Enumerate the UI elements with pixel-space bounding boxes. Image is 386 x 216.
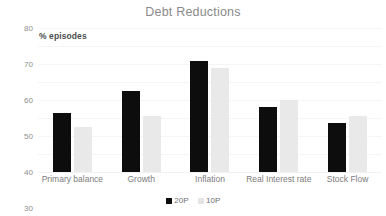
legend-item[interactable]: 10P — [198, 196, 221, 205]
y-axis-tick-label: 40 — [3, 168, 33, 177]
bar-group — [244, 28, 313, 172]
x-axis-category-label: Growth — [107, 174, 176, 185]
bar-10p[interactable] — [74, 127, 92, 172]
legend-swatch-icon — [198, 198, 204, 204]
y-axis-tick-label: 70 — [3, 60, 33, 69]
bar-20p[interactable] — [259, 107, 277, 172]
legend-item[interactable]: 20P — [166, 196, 189, 205]
x-axis-category-label: Stock Flow — [313, 174, 382, 185]
bar-groups — [38, 28, 382, 172]
gridline: 0 — [38, 172, 382, 173]
x-axis-category-label: Primary balance — [38, 174, 107, 185]
y-axis-tick-label: 80 — [3, 24, 33, 33]
bar-20p[interactable] — [190, 61, 208, 172]
bar-group — [176, 28, 245, 172]
bar-group — [313, 28, 382, 172]
bar-20p[interactable] — [328, 123, 346, 172]
bar-10p[interactable] — [280, 100, 298, 172]
legend-label: 20P — [174, 196, 188, 205]
chart-title: Debt Reductions — [0, 5, 386, 19]
bar-20p[interactable] — [122, 91, 140, 172]
bar-20p[interactable] — [53, 113, 71, 172]
plot-area: 80706050403020100 — [38, 28, 382, 172]
chart-legend: 20P10P — [0, 196, 386, 205]
legend-label: 10P — [206, 196, 220, 205]
bar-group — [38, 28, 107, 172]
y-axis-tick-label: 50 — [3, 132, 33, 141]
bar-10p[interactable] — [349, 116, 367, 172]
legend-swatch-icon — [166, 198, 172, 204]
x-axis-category-label: Real Interest rate — [244, 174, 313, 185]
bar-10p[interactable] — [143, 116, 161, 172]
y-axis-tick-label: 60 — [3, 96, 33, 105]
bar-group — [107, 28, 176, 172]
chart-container: Debt Reductions % episodes 8070605040302… — [0, 0, 386, 216]
x-axis-category-label: Inflation — [176, 174, 245, 185]
bar-10p[interactable] — [211, 68, 229, 172]
x-axis-labels: Primary balanceGrowthInflationReal Inter… — [38, 174, 382, 185]
